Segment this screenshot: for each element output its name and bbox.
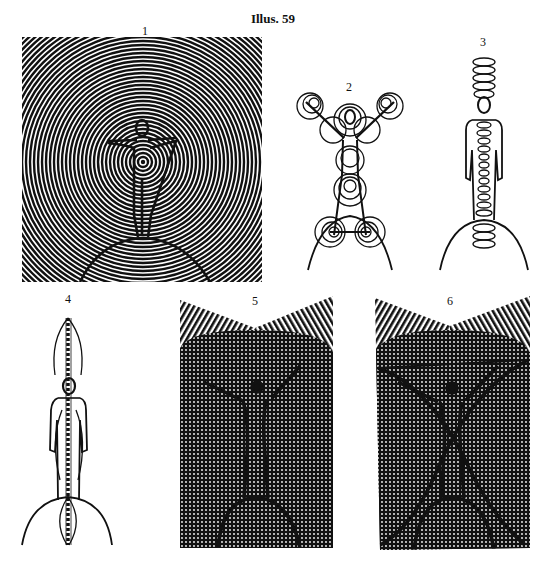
panel-6-dotted-field-crossed-figure: [374, 296, 532, 550]
panel-3-helix-figure: [440, 58, 528, 270]
illustration-canvas: [0, 0, 546, 568]
panel-2-vortex-figure: [297, 93, 403, 270]
panel-1-spiral-figure: [0, 0, 314, 333]
panel-5-dotted-field-figure: [180, 296, 335, 548]
panel-4-braid-figure: [22, 318, 112, 545]
